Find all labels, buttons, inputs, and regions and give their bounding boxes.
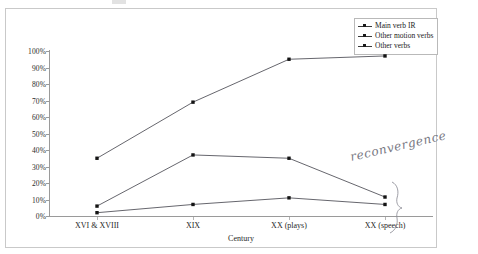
x-axis-tick-label: XX (plays): [271, 221, 307, 230]
x-axis-tick-mark: [193, 217, 194, 220]
x-axis-tick-label: XX (speech): [365, 221, 406, 230]
x-axis-tick-label: XVI & XVIII: [75, 221, 119, 230]
x-axis-tick-mark: [289, 217, 290, 220]
x-axis-tick-mark: [97, 217, 98, 220]
x-axis-tick-label: XIX: [186, 221, 200, 230]
x-axis-tick-mark: [385, 217, 386, 220]
x-axis-ticks: XVI & XVIIIXIXXX (plays)XX (speech): [0, 0, 478, 254]
x-axis-title: Century: [49, 234, 433, 243]
